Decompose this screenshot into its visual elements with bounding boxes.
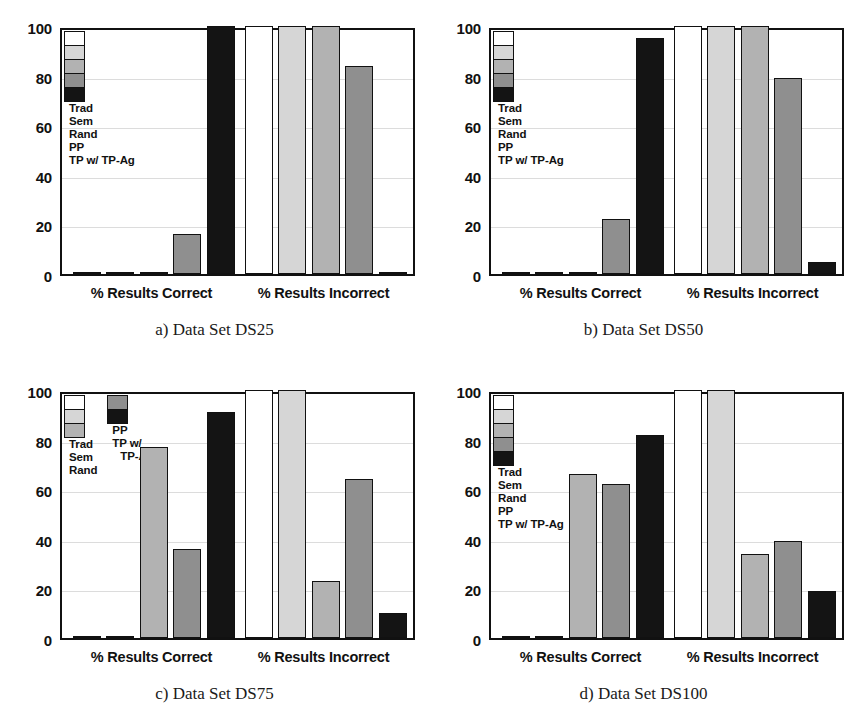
- y-axis-tick-label: 20: [441, 582, 481, 599]
- panel-a: 020406080100% Results Correct% Results I…: [0, 0, 429, 364]
- legend-label: Sem: [498, 479, 564, 492]
- y-axis-tick-label: 40: [12, 168, 52, 185]
- legend-swatch-tp-w-tp-ag: [494, 88, 513, 101]
- legend-label: PP: [498, 141, 564, 154]
- bar-rand: [741, 26, 769, 274]
- legend-swatch-pp: [494, 438, 513, 452]
- bar-tp-w-tp-ag: [207, 26, 235, 274]
- panel-caption: d) Data Set DS100: [429, 684, 858, 704]
- legend-swatch-stack: [64, 395, 85, 438]
- bar-pp: [602, 484, 630, 638]
- bar-tp-w-tp-ag: [379, 272, 407, 274]
- y-axis-tick-label: 40: [12, 532, 52, 549]
- bar-rand: [569, 272, 597, 274]
- bar-sem: [278, 390, 306, 638]
- legend-label: TP w/ TP-Ag: [498, 518, 564, 531]
- y-axis-tick-label: 40: [441, 168, 481, 185]
- bar-tp-w-tp-ag: [636, 435, 664, 638]
- y-axis-tick-label: 60: [12, 119, 52, 136]
- x-axis-category-label: % Results Incorrect: [653, 285, 853, 301]
- bar-tp-w-tp-ag: [379, 613, 407, 638]
- legend-label: Rand: [69, 128, 135, 141]
- bar-trad: [245, 390, 273, 638]
- bar-sem: [535, 636, 563, 638]
- panel-d: 020406080100% Results Correct% Results I…: [429, 364, 858, 728]
- panel-caption: a) Data Set DS25: [0, 320, 429, 340]
- bar-rand: [741, 554, 769, 638]
- bar-pp: [345, 66, 373, 274]
- y-axis-tick-label: 0: [441, 632, 481, 649]
- legend-label: Rand: [69, 464, 97, 477]
- bar-pp: [774, 78, 802, 274]
- legend-swatch-stack: [107, 395, 128, 424]
- legend-label: Rand: [498, 492, 564, 505]
- y-axis-tick-label: 60: [441, 483, 481, 500]
- bar-rand: [312, 26, 340, 274]
- panel-c: 020406080100% Results Correct% Results I…: [0, 364, 429, 728]
- legend-swatch-trad: [65, 396, 84, 410]
- y-axis-tick-label: 100: [12, 384, 52, 401]
- bar-tp-w-tp-ag: [207, 412, 235, 638]
- panel-b: 020406080100% Results Correct% Results I…: [429, 0, 858, 364]
- legend-label: TP w/ TP-Ag: [498, 154, 564, 167]
- y-axis-tick-label: 40: [441, 532, 481, 549]
- legend-swatch-tp-w-tp-ag: [65, 88, 84, 101]
- y-axis-ticks: 020406080100: [441, 364, 481, 728]
- y-axis-tick-label: 0: [441, 268, 481, 285]
- bar-trad: [674, 26, 702, 274]
- bar-tp-w-tp-ag: [808, 262, 836, 274]
- bar-pp: [345, 479, 373, 638]
- x-axis-category-label: % Results Correct: [52, 285, 252, 301]
- legend-swatch-rand: [65, 424, 84, 437]
- legend-swatch-sem: [494, 410, 513, 424]
- legend-label: Trad: [69, 438, 97, 451]
- legend-swatch-trad: [494, 396, 513, 410]
- bar-trad: [245, 26, 273, 274]
- legend-swatch-pp: [65, 74, 84, 88]
- legend-label: Trad: [498, 102, 564, 115]
- bar-rand: [140, 272, 168, 274]
- bar-tp-w-tp-ag: [808, 591, 836, 638]
- legend-label: Trad: [69, 102, 135, 115]
- bar-rand: [569, 474, 597, 638]
- legend-label: TP w/ TP-Ag: [69, 154, 135, 167]
- bar-pp: [774, 541, 802, 638]
- y-axis-tick-label: 80: [441, 433, 481, 450]
- legend-swatch-trad: [494, 32, 513, 46]
- y-axis-ticks: 020406080100: [12, 364, 52, 728]
- x-axis-category-label: % Results Incorrect: [653, 649, 853, 665]
- legend-label: Trad: [498, 466, 564, 479]
- x-axis-category-label: % Results Incorrect: [224, 649, 424, 665]
- legend-label-stack: TradSemRand: [69, 438, 97, 477]
- legend-swatch-tp-w-tp-ag: [494, 452, 513, 465]
- y-axis-tick-label: 20: [441, 218, 481, 235]
- legend-label: Sem: [69, 115, 135, 128]
- bar-trad: [73, 272, 101, 274]
- legend-label: Sem: [69, 451, 97, 464]
- y-axis-tick-label: 20: [12, 218, 52, 235]
- legend-label: PP: [498, 505, 564, 518]
- bar-sem: [278, 26, 306, 274]
- legend-label-stack: TradSemRandPPTP w/ TP-Ag: [498, 466, 564, 531]
- legend-label: PP: [69, 141, 135, 154]
- legend-column: TradSemRandPPTP w/ TP-Ag: [64, 31, 135, 167]
- legend-swatch-pp: [108, 396, 127, 410]
- legend-column: TradSemRandPPTP w/ TP-Ag: [493, 395, 564, 531]
- x-axis-category-label: % Results Correct: [481, 649, 681, 665]
- legend-swatch-trad: [65, 32, 84, 46]
- x-axis-category-label: % Results Correct: [481, 285, 681, 301]
- legend-column: TradSemRandPPTP w/ TP-Ag: [493, 31, 564, 167]
- y-axis-ticks: 020406080100: [12, 0, 52, 364]
- legend-swatch-tp-w: [108, 410, 127, 423]
- legend-swatch-stack: [64, 31, 85, 102]
- y-axis-tick-label: 60: [441, 119, 481, 136]
- bar-rand: [140, 447, 168, 638]
- bar-sem: [707, 390, 735, 638]
- bar-sem: [106, 272, 134, 274]
- bar-rand: [312, 581, 340, 638]
- y-axis-tick-label: 100: [441, 20, 481, 37]
- legend-swatch-sem: [494, 46, 513, 60]
- figure-sheet: 020406080100% Results Correct% Results I…: [0, 0, 858, 728]
- y-axis-tick-label: 100: [12, 20, 52, 37]
- y-axis-tick-label: 80: [12, 433, 52, 450]
